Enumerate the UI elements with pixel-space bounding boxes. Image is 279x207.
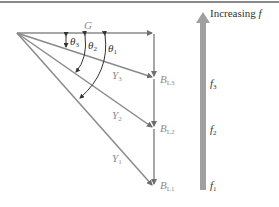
y2-label: Y2 [112, 110, 122, 123]
increasing-f-label: Increasing f [210, 8, 262, 19]
bl1-label: BL1 [160, 180, 175, 193]
y3-label: Y3 [112, 70, 122, 83]
y1-label: Y1 [112, 153, 122, 166]
admittance-phasor-diagram: G θ3 θ2 θ1 Y3 Y2 Y1 BL3 BL2 BL1 Increasi… [0, 0, 279, 207]
theta2-label: θ2 [88, 40, 97, 53]
f3-label: f3 [210, 78, 217, 91]
theta1-label: θ1 [108, 43, 117, 56]
frequency-arrow-shaft [200, 22, 206, 190]
bl2-label: BL2 [160, 123, 175, 136]
bl3-label: BL3 [160, 74, 175, 87]
theta3-label: θ3 [70, 36, 79, 49]
f2-label: f2 [210, 124, 217, 137]
frequency-arrow-head [196, 12, 210, 23]
f1-label: f1 [210, 180, 217, 193]
diagram-graphics [0, 0, 279, 207]
g-label: G [84, 20, 92, 31]
y2-vector [17, 33, 152, 127]
